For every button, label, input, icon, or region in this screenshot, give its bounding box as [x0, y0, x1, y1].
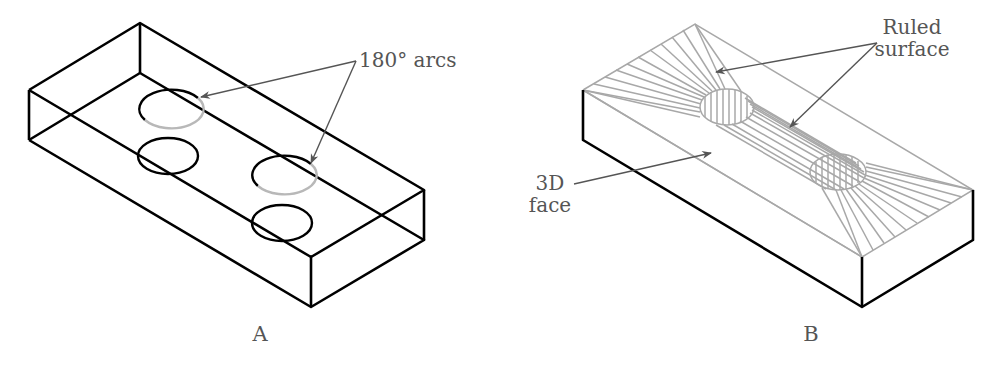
- callout-3d-face: 3D face: [525, 172, 575, 216]
- callout-3d-face-line1: 3D: [525, 172, 575, 194]
- callout-3d-face-line2: face: [525, 194, 575, 216]
- figure-a-caption: A: [248, 323, 272, 345]
- figure-a-leaders: [201, 61, 356, 163]
- callout-180-arcs: 180° arcs: [359, 49, 456, 71]
- figure-b-caption: B: [799, 323, 823, 345]
- callout-ruled-surface-line2: surface: [872, 38, 952, 60]
- diagram-canvas: [0, 0, 995, 366]
- callout-ruled-surface-line1: Ruled: [872, 16, 952, 38]
- callout-ruled-surface: Ruled surface: [872, 16, 952, 60]
